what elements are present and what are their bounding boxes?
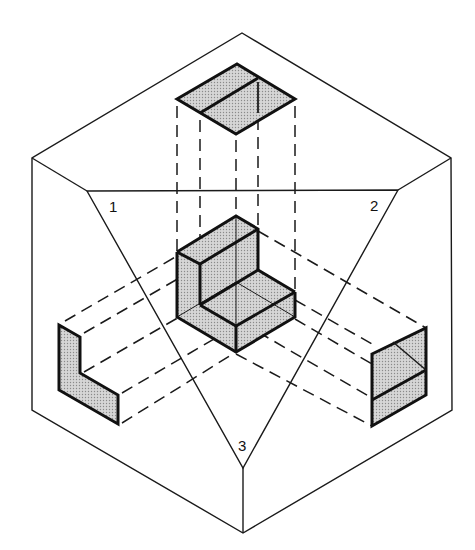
plane-label-3: 3 bbox=[238, 437, 246, 454]
projection-diagram: 1 2 3 bbox=[0, 0, 475, 550]
plane-label-1: 1 bbox=[109, 198, 117, 215]
top-view bbox=[177, 64, 295, 134]
left-view bbox=[59, 325, 118, 424]
isometric-object bbox=[177, 216, 295, 352]
plane-label-2: 2 bbox=[370, 197, 378, 214]
right-view bbox=[372, 328, 426, 426]
